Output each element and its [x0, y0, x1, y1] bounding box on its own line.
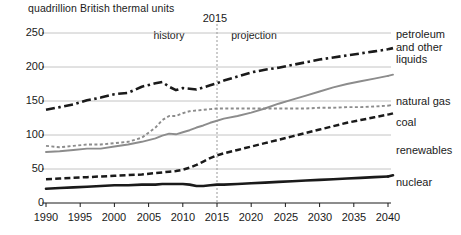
series-label-nuclear: nuclear [396, 176, 432, 189]
petroleum-label-line2: and other [396, 41, 442, 53]
energy-consumption-chart: quadrillion British thermal units 2015 h… [0, 0, 461, 235]
petroleum-label-line3: liquids [396, 53, 427, 65]
series-label-natural-gas: natural gas [396, 95, 450, 108]
series-label-coal: coal [396, 116, 416, 129]
series-label-petroleum: petroleum and other liquids [396, 28, 445, 66]
chart-plot-area [0, 0, 461, 235]
petroleum-label-line1: petroleum [396, 28, 445, 40]
series-label-renewables: renewables [396, 144, 452, 157]
